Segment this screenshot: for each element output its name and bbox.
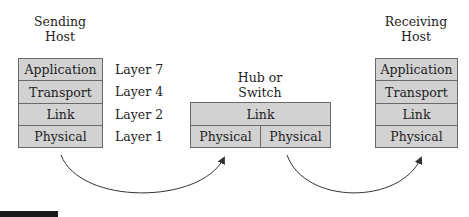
arrow-hub-to-receiver [287,155,421,193]
flow-arrows [0,0,469,217]
arrow-sender-to-hub [61,155,224,193]
black-bar [0,211,58,217]
